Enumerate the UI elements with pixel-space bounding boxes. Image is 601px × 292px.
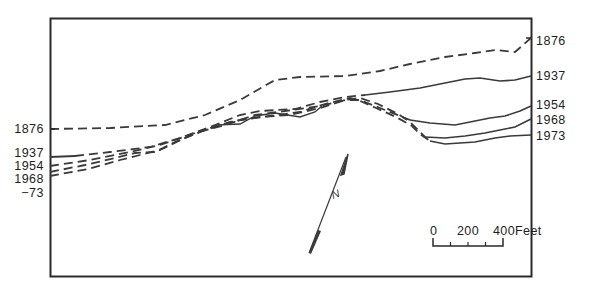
left-label-1968: 1968 (2, 173, 44, 186)
shoreline-1954-solid (410, 106, 531, 125)
shoreline-1973-solid (430, 135, 531, 144)
shoreline-map: N 1876 1937 1954 1968 −73 1876 1937 1954… (0, 0, 601, 292)
right-label-1876: 1876 (536, 35, 566, 48)
right-label-1968: 1968 (536, 114, 566, 127)
right-label-1954: 1954 (536, 99, 566, 112)
map-canvas: N (0, 0, 601, 292)
shoreline-1968-dashed (50, 98, 425, 172)
north-arrow-icon: N (309, 154, 348, 254)
scale-label-400-feet: 400Feet (493, 224, 542, 238)
shoreline-1937-solid (365, 76, 531, 95)
svg-text:N: N (330, 187, 342, 201)
scale-bar (433, 238, 503, 246)
right-label-1973: 1973 (536, 130, 566, 143)
left-label-73: −73 (2, 187, 44, 200)
scale-label-200: 200 (457, 224, 479, 238)
scale-label-0: 0 (430, 224, 437, 238)
left-label-1876: 1876 (2, 123, 44, 136)
shoreline-1973-dashed (50, 98, 430, 176)
shoreline-1954-dashed (50, 100, 410, 166)
right-label-1937: 1937 (536, 70, 566, 83)
shoreline-1937-start (50, 156, 75, 157)
